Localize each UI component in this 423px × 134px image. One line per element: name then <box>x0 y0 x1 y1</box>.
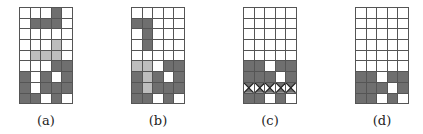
empty-cell <box>20 29 31 40</box>
empty-cell <box>31 72 42 83</box>
cleared-cell <box>255 83 266 94</box>
filled-cell <box>20 94 31 105</box>
empty-cell <box>62 40 73 51</box>
empty-cell <box>164 8 175 19</box>
empty-cell <box>367 61 378 72</box>
empty-cell <box>62 51 73 62</box>
empty-cell <box>62 94 73 105</box>
empty-cell <box>255 19 266 30</box>
filled-cell <box>132 83 143 94</box>
empty-cell <box>276 51 287 62</box>
empty-cell <box>377 29 388 40</box>
filled-cell <box>286 72 297 83</box>
empty-cell <box>153 29 164 40</box>
empty-cell <box>398 29 409 40</box>
empty-cell <box>62 29 73 40</box>
empty-cell <box>132 29 143 40</box>
filled-cell <box>31 19 42 30</box>
tetris-grid-d <box>355 7 409 104</box>
filled-cell <box>356 72 367 83</box>
filled-cell <box>398 72 409 83</box>
empty-cell <box>174 51 185 62</box>
piece-cell <box>41 51 52 62</box>
empty-cell <box>276 40 287 51</box>
empty-cell <box>164 51 175 62</box>
filled-cell <box>164 61 175 72</box>
empty-cell <box>377 8 388 19</box>
empty-cell <box>255 29 266 40</box>
empty-cell <box>174 40 185 51</box>
empty-cell <box>244 8 255 19</box>
filled-cell <box>52 94 63 105</box>
filled-cell <box>132 94 143 105</box>
empty-cell <box>164 19 175 30</box>
panel-a <box>19 7 73 104</box>
caption-c: (c) <box>240 113 300 128</box>
empty-cell <box>388 51 399 62</box>
empty-cell <box>255 8 266 19</box>
filled-cell <box>244 94 255 105</box>
empty-cell <box>286 94 297 105</box>
empty-cell <box>132 40 143 51</box>
filled-cell <box>41 83 52 94</box>
filled-cell <box>62 83 73 94</box>
filled-cell <box>52 61 63 72</box>
empty-cell <box>174 8 185 19</box>
empty-cell <box>31 29 42 40</box>
empty-cell <box>265 29 276 40</box>
empty-cell <box>164 29 175 40</box>
empty-cell <box>41 29 52 40</box>
empty-cell <box>367 29 378 40</box>
cross-icon <box>265 83 275 93</box>
filled-cell <box>255 94 266 105</box>
piece-cell <box>143 61 154 72</box>
filled-cell <box>367 94 378 105</box>
cleared-cell <box>286 83 297 94</box>
empty-cell <box>31 40 42 51</box>
filled-cell <box>20 72 31 83</box>
empty-cell <box>398 61 409 72</box>
tetris-grid-a <box>19 7 73 104</box>
empty-cell <box>143 8 154 19</box>
empty-cell <box>367 40 378 51</box>
caption-b: (b) <box>128 113 188 128</box>
empty-cell <box>356 19 367 30</box>
empty-cell <box>286 40 297 51</box>
empty-cell <box>132 51 143 62</box>
empty-cell <box>265 40 276 51</box>
filled-cell <box>132 19 143 30</box>
empty-cell <box>398 40 409 51</box>
filled-cell <box>41 72 52 83</box>
filled-cell <box>367 72 378 83</box>
empty-cell <box>20 19 31 30</box>
empty-cell <box>398 51 409 62</box>
empty-cell <box>356 61 367 72</box>
filled-cell <box>20 83 31 94</box>
filled-cell <box>244 61 255 72</box>
empty-cell <box>244 40 255 51</box>
empty-cell <box>367 8 378 19</box>
empty-cell <box>377 40 388 51</box>
empty-cell <box>41 61 52 72</box>
empty-cell <box>265 8 276 19</box>
piece-cell <box>143 72 154 83</box>
empty-cell <box>356 8 367 19</box>
empty-cell <box>377 51 388 62</box>
empty-cell <box>377 19 388 30</box>
panel-c <box>243 7 297 104</box>
empty-cell <box>164 72 175 83</box>
empty-cell <box>286 51 297 62</box>
empty-cell <box>388 83 399 94</box>
filled-cell <box>255 61 266 72</box>
empty-cell <box>41 8 52 19</box>
empty-cell <box>265 94 276 105</box>
empty-cell <box>398 8 409 19</box>
empty-cell <box>20 61 31 72</box>
empty-cell <box>174 94 185 105</box>
empty-cell <box>286 8 297 19</box>
empty-cell <box>276 29 287 40</box>
cross-icon <box>244 83 254 93</box>
empty-cell <box>255 51 266 62</box>
filled-cell <box>143 29 154 40</box>
cleared-cell <box>244 83 255 94</box>
